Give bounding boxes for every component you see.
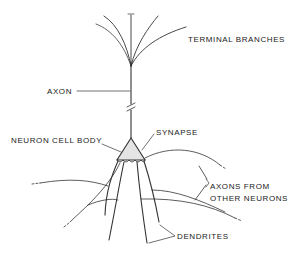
label-dendrites: DENDRITES [177, 232, 229, 241]
label-other-neurons: OTHER NEURONS [210, 194, 288, 203]
label-neuron-cell-body: NEURON CELL BODY [11, 136, 102, 145]
label-axon: AXON [47, 87, 72, 96]
label-terminal-branches: TERMINAL BRANCHES [188, 35, 285, 44]
label-synapse: SYNAPSE [156, 128, 198, 137]
terminal-branches [96, 14, 186, 66]
dendrites [88, 161, 159, 243]
label-axons-from: AXONS FROM [210, 182, 270, 191]
neuron-diagram: TERMINAL BRANCHES AXON NEURON CELL BODY … [0, 0, 294, 257]
cell-body [117, 138, 145, 162]
axon [127, 62, 135, 138]
